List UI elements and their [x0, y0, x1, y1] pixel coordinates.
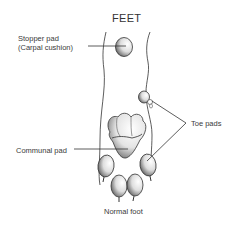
dewclaw-pad-icon [139, 91, 153, 108]
toe-pad-left-inner-icon [111, 175, 127, 202]
toe-pads-leader-upper [152, 101, 186, 123]
communal-pad-icon [108, 113, 146, 158]
toe-pad-right-outer-icon [139, 153, 158, 181]
toe-pad-right-inner-icon [127, 174, 143, 201]
toe-pads-leader-lower [147, 123, 186, 161]
foot-illustration [0, 0, 235, 229]
stopper-pad-icon [116, 38, 133, 57]
